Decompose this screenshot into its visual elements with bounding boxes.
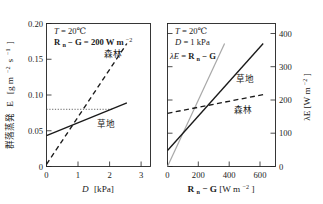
svg-text:D [kPa]: D [kPa]: [81, 184, 114, 194]
right-annotation-temperature: T = 20℃: [175, 26, 208, 36]
right-xtick-0: 0: [165, 170, 169, 180]
left-xtick-3: 3: [139, 170, 143, 180]
right-ytick-4: 400: [279, 29, 292, 39]
right-ytick-1: 100: [279, 128, 292, 138]
left-ytick-1: 0.05: [28, 126, 43, 136]
right-annotation-equilibrium: λE = R n − G: [169, 51, 216, 63]
left-annotation-available-energy: R n − G = 200 W m −2: [54, 36, 132, 49]
chart-svg: 0 0.05 0.10 0.15 0.20 0 1 2 3 D [kPa] 群落…: [0, 0, 323, 204]
right-y-ticks: [271, 34, 276, 167]
left-panel: 0 0.05 0.10 0.15 0.20 0 1 2 3 D [kPa] 群落…: [0, 19, 151, 194]
right-ytick-2: 200: [279, 95, 292, 105]
left-y-ticks: [47, 24, 52, 167]
left-ytick-3: 0.15: [28, 54, 43, 64]
left-ytick-4: 0.20: [28, 19, 43, 29]
left-y-jp: 群落蒸発: [4, 113, 15, 149]
right-x-axis-title: R n − G [W m −2 ]: [188, 181, 255, 196]
left-y-unit-sup2: −1: [4, 48, 11, 55]
svg-text:λE [W m −: λE [W m −2 ]: [299, 73, 312, 121]
svg-text:群落蒸発 E [g: 群落蒸発 E [g m −2 s −1 ]: [0, 41, 16, 149]
left-y-unit-a: [g m: [5, 77, 15, 94]
left-x-symbol: D: [81, 184, 89, 194]
left-x-ticks: [47, 162, 142, 167]
left-y-unit-c: ]: [5, 41, 15, 44]
left-y-unit-b: s: [5, 58, 15, 62]
right-xtick-3: 600: [254, 170, 267, 180]
right-panel: 0 100 200 300 400 0 200 400 600 R n − G …: [165, 24, 312, 197]
left-ytick-0: 0: [39, 162, 43, 172]
figure-container: 0 0.05 0.10 0.15 0.20 0 1 2 3 D [kPa] 群落…: [0, 0, 323, 204]
left-y-axis-title: 群落蒸発 E [g m −2 s −1 ]: [0, 41, 16, 149]
left-x-unit: [kPa]: [94, 184, 114, 194]
right-xtick-2: 400: [223, 170, 236, 180]
right-annotation-vpd: D = 1 kPa: [174, 37, 210, 47]
left-y-symbol: E: [5, 101, 15, 107]
right-xtick-1: 200: [192, 170, 205, 180]
left-label-forest: 森林: [104, 48, 122, 59]
left-xtick-1: 1: [76, 170, 80, 180]
left-annotation-temperature: T = 20℃: [54, 26, 87, 36]
left-series-forest: [47, 44, 127, 165]
right-ytick-0: 0: [279, 162, 283, 172]
right-label-forest: 森林: [234, 104, 252, 115]
left-xtick-2: 2: [107, 170, 111, 180]
right-ytick-3: 300: [279, 62, 292, 72]
left-xtick-0: 0: [44, 170, 48, 180]
right-y-axis-title: λE [W m −2 ]: [299, 73, 312, 121]
left-label-grassland: 草地: [97, 118, 115, 129]
left-y-unit-sup1: −2: [4, 66, 11, 73]
left-ytick-2: 0.10: [28, 90, 43, 100]
right-label-grassland: 草地: [236, 73, 254, 84]
left-x-axis-title: D [kPa]: [81, 184, 114, 194]
right-x-ticks: [168, 162, 261, 167]
